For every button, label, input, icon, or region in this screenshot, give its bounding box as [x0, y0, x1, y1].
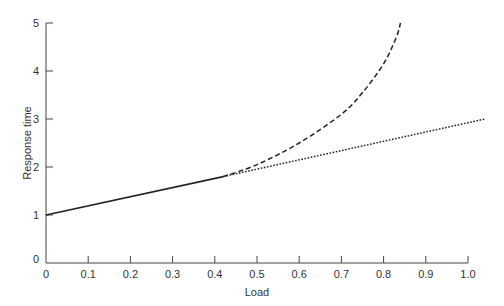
- y-tick-label: 2: [33, 161, 39, 173]
- y-axis-label: Response time: [21, 106, 33, 179]
- x-tick-label: 0.6: [292, 268, 307, 280]
- y-tick-label: 4: [33, 65, 39, 77]
- y-tick-label: 0: [33, 253, 39, 265]
- x-tick-label: 0.2: [123, 268, 138, 280]
- x-tick-label: 0: [43, 268, 49, 280]
- series-solid-line: [46, 177, 223, 215]
- y-tick-label: 1: [33, 209, 39, 221]
- axes: 01234500.10.20.30.40.50.60.70.80.91.0: [33, 17, 476, 280]
- x-tick-label: 0.8: [376, 268, 391, 280]
- x-tick-label: 0.7: [334, 268, 349, 280]
- x-tick-label: 0.5: [249, 268, 264, 280]
- plot-area: [46, 23, 485, 215]
- x-axis-label: Load: [245, 286, 269, 298]
- series-dashed-line: [223, 23, 400, 177]
- response-time-chart: 01234500.10.20.30.40.50.60.70.80.91.0 Lo…: [0, 0, 504, 306]
- y-tick-label: 5: [33, 17, 39, 29]
- x-tick-label: 0.1: [81, 268, 96, 280]
- x-tick-label: 0.3: [165, 268, 180, 280]
- x-tick-label: 1.0: [460, 268, 475, 280]
- x-tick-label: 0.9: [418, 268, 433, 280]
- series-dotted-line: [223, 119, 485, 177]
- x-tick-label: 0.4: [207, 268, 222, 280]
- y-tick-label: 3: [33, 113, 39, 125]
